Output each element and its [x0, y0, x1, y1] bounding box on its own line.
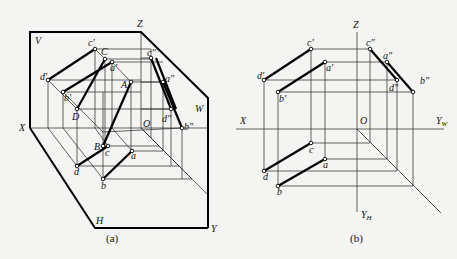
label-b-b-front: b' [279, 93, 287, 104]
label-b-b-side: b" [420, 75, 430, 86]
label-b-origin: O [360, 115, 367, 126]
label-a-a-top: a [131, 150, 136, 161]
label-a-c-top: c [105, 147, 110, 158]
orthographic-projection-diagram: Z V W H X Y O c' C a' d' b' D A B c" a" … [0, 0, 457, 259]
label-b-a-front: a' [326, 62, 334, 73]
label-b-axis-yw: YW [436, 115, 449, 128]
label-a-axis-y: Y [211, 223, 218, 234]
label-b-d-top: d [263, 171, 269, 182]
label-a-b-top: b [101, 180, 106, 191]
label-b-c-top: c [309, 144, 314, 155]
label-a-a-front: a' [110, 62, 118, 73]
label-a-c-front: c' [88, 37, 95, 48]
figure-b-construction-lines [236, 32, 444, 213]
figure-b-labels: Z X O YW YH c' a' d' b' c" a" d" b" c a … [239, 19, 449, 222]
label-a-origin: O [143, 118, 150, 129]
label-space-D: D [71, 111, 80, 122]
label-a-d-side: d" [162, 113, 172, 124]
figure-a: Z V W H X Y O c' C a' d' b' D A B c" a" … [18, 18, 218, 245]
label-space-C: C [101, 46, 108, 57]
h-plane-outline [30, 128, 208, 228]
label-b-axis-x: X [239, 115, 247, 126]
figure-a-caption: (a) [106, 232, 119, 245]
label-plane-v: V [35, 35, 43, 46]
figure-b-object-edges [264, 49, 413, 186]
label-b-d-front: d' [257, 70, 265, 81]
label-plane-h: H [95, 215, 104, 226]
label-a-d-top: d [74, 166, 80, 177]
label-space-A: A [120, 79, 128, 90]
label-a-b-front: b' [64, 92, 72, 103]
label-a-axis-z: Z [137, 18, 143, 29]
label-plane-w: W [195, 103, 205, 114]
label-b-a-top: a [323, 159, 328, 170]
label-b-axis-z: Z [353, 19, 359, 30]
label-b-b-top: b [277, 186, 282, 197]
label-b-c-front: c' [307, 37, 314, 48]
label-a-d-front: d' [40, 71, 48, 82]
label-a-axis-x: X [18, 122, 26, 133]
label-b-c-side: c" [366, 37, 375, 48]
label-space-B: B [94, 141, 100, 152]
label-b-a-side: a" [383, 50, 393, 61]
figure-b: Z X O YW YH c' a' d' b' c" a" d" b" c a … [236, 19, 449, 245]
label-a-a-side: a" [165, 73, 175, 84]
label-a-c-side: c" [147, 47, 156, 58]
label-b-axis-yh: YH [361, 209, 373, 222]
figure-b-caption: (b) [350, 232, 363, 245]
label-a-b-side: b" [184, 121, 194, 132]
label-b-d-side: d" [389, 82, 399, 93]
